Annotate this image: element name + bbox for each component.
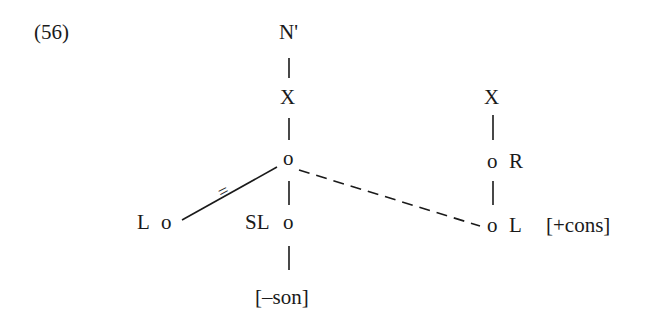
tree-lines xyxy=(0,0,663,323)
line-root-right-l-dashed xyxy=(299,170,480,226)
line-root-left-l xyxy=(182,167,277,220)
